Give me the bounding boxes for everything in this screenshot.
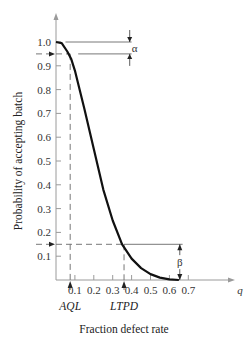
x-tick-label: 0.1 <box>68 284 82 296</box>
x-tick-label: 0.4 <box>125 284 139 296</box>
y-tick-label: 0.2 <box>37 226 51 238</box>
y-axis-title: Probability of accepting batch <box>12 92 25 231</box>
y-tick-label: 0.6 <box>37 131 51 143</box>
x-axis-symbol: q <box>237 284 243 296</box>
x-tick-label: 0.5 <box>144 284 158 296</box>
labels: 0.10.20.30.40.50.60.70.80.91.00.10.20.30… <box>12 36 243 335</box>
y-tick-label: 1.0 <box>37 36 51 48</box>
beta-label: β <box>177 256 183 268</box>
ltpd-label: LTPD <box>109 300 139 312</box>
arrow-icon <box>49 51 55 56</box>
y-tick-label: 0.3 <box>37 203 51 215</box>
x-tick-label: 0.7 <box>181 284 195 296</box>
x-tick-label: 0.6 <box>163 284 177 296</box>
arrow-icon <box>49 242 55 247</box>
alpha-label: α <box>132 42 138 54</box>
y-tick-label: 0.1 <box>37 250 51 262</box>
axes <box>54 13 236 283</box>
x-tick-label: 0.3 <box>106 284 120 296</box>
y-axis-arrow-icon <box>54 13 59 20</box>
y-tick-label: 0.5 <box>37 155 51 167</box>
x-axis-arrow-icon <box>228 278 235 283</box>
oc-curve-chart: 0.10.20.30.40.50.60.70.80.91.00.10.20.30… <box>0 0 251 342</box>
guide-lines <box>36 30 185 290</box>
x-axis-title: Fraction defect rate <box>79 323 168 335</box>
y-tick-label: 0.9 <box>37 60 51 72</box>
y-tick-label: 0.8 <box>37 84 51 96</box>
alpha-arrow-icon <box>127 54 132 59</box>
y-tick-label: 0.4 <box>37 179 51 191</box>
x-tick-label: 0.2 <box>87 284 101 296</box>
aql-label: AQL <box>58 300 81 312</box>
y-tick-label: 0.7 <box>37 107 51 119</box>
